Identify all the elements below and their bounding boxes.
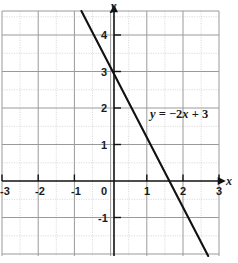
x-tick-label-3: 3 [216,186,222,197]
axes [2,6,224,256]
x-axis-label: x [226,175,232,187]
y-tick-label-2: 2 [101,103,107,114]
equation-equals-slope: = −2 [156,107,183,121]
y-tick-label-4: 4 [101,30,107,41]
y-tick-label--1: -1 [98,213,108,224]
major-gridlines [2,11,219,256]
x-tick-label--3: -3 [0,186,10,197]
graph-figure: -3 -2 -1 0 1 2 3 4 3 2 1 -1 x y y = −2x … [0,0,238,263]
x-tick-label-1: 1 [144,186,150,197]
equation-annotation: y = −2x + 3 [150,108,208,121]
x-tick-label--1: -1 [71,186,81,197]
y-axis-label: y [111,0,116,12]
x-tick-label-0: 0 [101,186,107,197]
coordinate-plane-svg [0,0,238,263]
y-tick-label-1: 1 [101,140,107,151]
x-tick-label-2: 2 [180,186,186,197]
x-tick-label--2: -2 [35,186,45,197]
y-tick-label-3: 3 [101,67,107,78]
equation-constant: + 3 [189,107,209,121]
